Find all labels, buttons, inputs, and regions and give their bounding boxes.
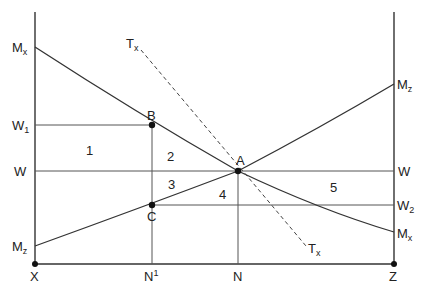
tx-bottom-label: Tx <box>308 241 321 258</box>
mz-left-label: Mz <box>12 239 28 256</box>
region-2: 2 <box>167 149 174 164</box>
mz-right-label: Mz <box>397 77 413 94</box>
region-1: 1 <box>86 143 93 158</box>
n1-label: N1 <box>144 268 158 284</box>
mx-right-label: Mx <box>397 226 413 243</box>
x-label: X <box>30 269 39 284</box>
mz-curve <box>35 84 394 246</box>
b-label: B <box>147 108 156 123</box>
point-x <box>32 261 38 267</box>
w2-label: W2 <box>397 198 414 215</box>
c-label: C <box>147 209 156 224</box>
tx-top-label: Tx <box>126 36 139 53</box>
mx-left-label: Mx <box>12 40 28 57</box>
wage-diagram: Mx W1 W Mz X Mz W W2 Mx Z Tx Tx B A C N1… <box>0 0 426 293</box>
point-c <box>149 202 155 208</box>
w-right-label: W <box>398 164 411 179</box>
z-label: Z <box>389 269 397 284</box>
mx-curve <box>35 47 394 232</box>
point-a <box>235 168 241 174</box>
a-label: A <box>236 153 245 168</box>
region-3: 3 <box>168 177 175 192</box>
region-4: 4 <box>219 187 226 202</box>
region-5: 5 <box>330 180 337 195</box>
w1-label: W1 <box>12 118 29 135</box>
n-label: N <box>233 269 242 284</box>
point-z <box>391 261 397 267</box>
w-left-label: W <box>14 164 27 179</box>
